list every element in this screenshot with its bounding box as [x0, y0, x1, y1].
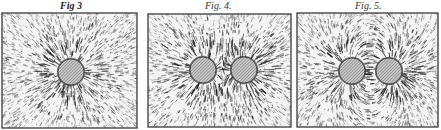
figure-5	[296, 12, 440, 129]
figure-plate: Fig 3 Fig. 4. Fig. 5.	[0, 0, 441, 130]
figure-4	[147, 13, 293, 129]
field-lines-illustration	[0, 0, 441, 130]
figure-3	[0, 12, 139, 130]
